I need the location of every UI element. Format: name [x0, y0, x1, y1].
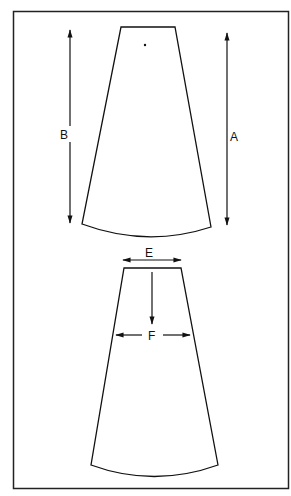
skirt-pattern-diagram: B A E F [0, 0, 291, 496]
measurement-f: F [116, 329, 190, 343]
measurement-b: B [60, 30, 78, 223]
grain-dot [144, 44, 146, 46]
label-e: E [145, 246, 153, 260]
label-f: F [148, 329, 155, 343]
label-a: A [230, 130, 238, 144]
lower-panel [91, 268, 218, 477]
measurement-e: E [123, 246, 181, 260]
measurement-a: A [227, 33, 242, 225]
upper-panel [82, 27, 211, 237]
label-b: B [60, 128, 68, 142]
